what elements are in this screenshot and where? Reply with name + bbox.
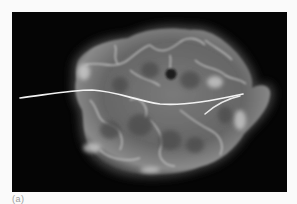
specimen-hole	[166, 69, 177, 80]
figure-caption-label: (a)	[12, 194, 25, 204]
specimen-radiograph	[12, 12, 287, 192]
radiograph-panel	[12, 12, 287, 192]
